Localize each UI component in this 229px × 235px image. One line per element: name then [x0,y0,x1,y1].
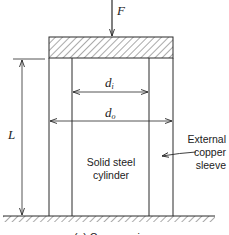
cap-plate [49,37,173,58]
inner-diameter-label: di [105,76,114,91]
outer-diameter-subscript: o [112,112,116,121]
length-dimension [13,59,45,215]
outer-part-line-1: External [186,133,226,146]
outer-part-label: External copper sleeve [186,133,226,172]
inner-diameter-subscript: i [112,82,114,91]
outer-diameter-label: do [105,106,116,121]
length-label: L [8,128,15,141]
inner-part-line-1: Solid steel [85,156,137,169]
force-label: F [117,4,125,17]
inner-part-line-2: cylinder [85,169,137,182]
figure-caption: (a) Compression [74,231,152,235]
outer-part-line-2: copper [186,146,226,159]
outer-part-line-3: sleeve [186,159,226,172]
inner-part-label: Solid steel cylinder [85,156,137,182]
ground-support [3,216,215,222]
